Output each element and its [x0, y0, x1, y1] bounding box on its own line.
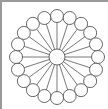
outer-node	[63, 12, 76, 25]
outer-node	[12, 63, 25, 76]
outer-node	[38, 89, 51, 102]
outer-node	[84, 26, 97, 39]
outer-node	[12, 38, 25, 51]
outer-node	[51, 92, 64, 105]
outer-node	[17, 75, 30, 88]
outer-node	[38, 12, 51, 25]
outer-node	[75, 84, 88, 97]
outer-node	[26, 17, 39, 30]
outer-node	[51, 10, 64, 23]
outer-node	[89, 63, 102, 76]
hub-spoke-diagram	[2, 2, 108, 109]
diagram-frame	[0, 0, 108, 109]
outer-node	[89, 38, 102, 51]
outer-node	[10, 51, 23, 64]
outer-node	[63, 89, 76, 102]
hub-node	[49, 49, 65, 65]
outer-node	[92, 51, 105, 64]
